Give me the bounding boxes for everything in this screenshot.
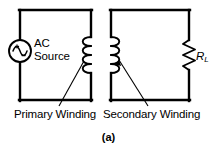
secondary-winding-label: Secondary Winding: [103, 108, 200, 121]
secondary-coil-turn-4: [111, 64, 119, 73]
primary-coil-turn-2: [83, 46, 91, 55]
load-resistor-zigzag: [183, 40, 195, 70]
secondary-coil-turn-1: [111, 37, 119, 46]
primary-coil-turn-3: [83, 55, 91, 64]
primary-coil-turn-1: [83, 37, 91, 46]
primary-winding-label: Primary Winding: [14, 108, 96, 121]
transformer-circuit-figure: AC Source RL Primary Winding Secondary W…: [0, 0, 217, 155]
primary-winding-coil: [83, 37, 91, 73]
primary-coil-turn-4: [83, 64, 91, 73]
load-resistor-label: RL: [196, 50, 209, 65]
ac-source-label-line1: AC: [34, 37, 70, 50]
ac-source-label-line2: Source: [34, 50, 70, 63]
ac-source-symbol: [9, 40, 31, 62]
secondary-winding-coil: [111, 37, 119, 73]
secondary-circuit-loop: [110, 10, 190, 101]
load-resistor-subscript: L: [204, 55, 208, 64]
figure-caption: (a): [0, 131, 217, 143]
secondary-coil-turn-2: [111, 46, 119, 55]
ac-source-label: AC Source: [34, 37, 70, 63]
